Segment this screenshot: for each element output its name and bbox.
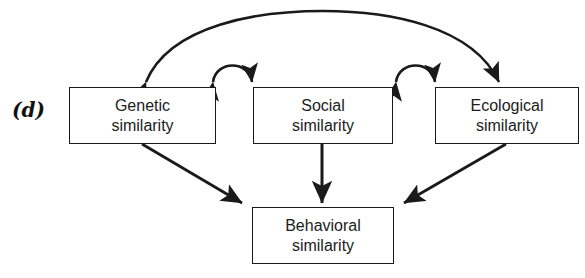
panel-label: (d): [12, 98, 45, 122]
figure-panel-d: (d) Genetic similarity Social similarity…: [0, 0, 585, 278]
edge-genetic-ecological-arc: [146, 11, 499, 82]
edge-social-ecological-arc: [396, 66, 435, 83]
node-social-similarity: Social similarity: [253, 87, 393, 144]
node-social-line2: similarity: [292, 116, 354, 136]
node-ecological-similarity: Ecological similarity: [435, 87, 579, 144]
node-behavioral-line2: similarity: [292, 236, 354, 256]
edge-ecological-behavioral: [404, 144, 506, 203]
node-social-line1: Social: [301, 96, 345, 116]
edge-genetic-behavioral: [142, 144, 242, 203]
node-behavioral-line1: Behavioral: [285, 216, 361, 236]
node-ecological-line1: Ecological: [471, 96, 544, 116]
node-behavioral-similarity: Behavioral similarity: [252, 207, 394, 264]
node-ecological-line2: similarity: [476, 116, 538, 136]
node-genetic-line2: similarity: [111, 116, 173, 136]
edge-genetic-social-arc: [213, 66, 252, 83]
node-genetic-line1: Genetic: [115, 96, 170, 116]
node-genetic-similarity: Genetic similarity: [69, 87, 216, 144]
